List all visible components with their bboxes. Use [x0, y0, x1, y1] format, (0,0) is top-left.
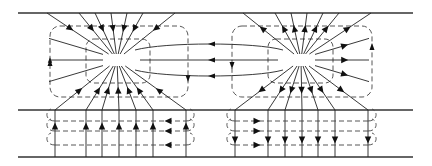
- field-diagram: [0, 0, 432, 166]
- left-dashed-loops: [48, 26, 191, 97]
- right-pole-field-lines: [235, 13, 371, 110]
- left-pole-field-lines: [47, 13, 186, 110]
- left-outer-loop: [50, 26, 188, 97]
- plates: [18, 13, 413, 157]
- bottom-right-strip: [227, 109, 376, 157]
- connecting-field-lines: [135, 42, 283, 79]
- bottom-left-strip: [47, 109, 194, 157]
- right-dashed-loops: [230, 26, 375, 97]
- right-outer-loop: [232, 26, 372, 97]
